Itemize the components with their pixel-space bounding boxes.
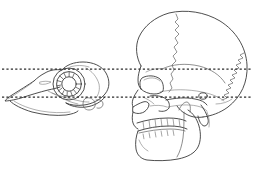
human-orbit-inner-line bbox=[144, 78, 160, 81]
bird-upper-beak bbox=[5, 81, 60, 101]
bird-lower-beak-inner bbox=[14, 101, 70, 113]
human-mastoid-process bbox=[198, 105, 208, 126]
human-nasal-aperture bbox=[133, 102, 149, 114]
bird-skull bbox=[5, 62, 109, 115]
comparative-skull-figure: Comparative skull profiles with horizont… bbox=[0, 0, 253, 170]
human-external-auditory-meatus bbox=[199, 93, 207, 99]
bird-naris bbox=[40, 81, 51, 84]
bird-temporal-fossa-line bbox=[86, 68, 99, 98]
human-orbit bbox=[140, 76, 163, 94]
human-occipital-detail-line bbox=[216, 99, 232, 104]
human-maxilla-outline bbox=[132, 112, 138, 129]
human-skull bbox=[132, 11, 247, 160]
human-maxilla-detail-line bbox=[150, 105, 167, 107]
human-zygomatic-bone bbox=[150, 96, 169, 112]
human-lower-teeth bbox=[139, 129, 185, 139]
bird-sclerotic-ring-inner bbox=[62, 77, 76, 91]
human-mental-protuberance bbox=[139, 140, 148, 151]
bird-lower-beak bbox=[10, 101, 78, 115]
reference-lines bbox=[2, 69, 251, 97]
human-cranial-vault-outline bbox=[137, 11, 248, 117]
human-coronal-suture bbox=[169, 14, 179, 92]
bird-cranial-crest-line bbox=[70, 66, 89, 68]
